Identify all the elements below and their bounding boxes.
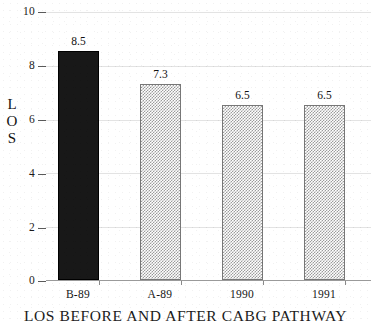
y-tick-mark-2 (38, 228, 46, 229)
x-category-label-b-89: B-89 (33, 288, 123, 301)
x-tick-mark-4 (345, 281, 346, 285)
bar-value-a-89: 7.3 (153, 68, 167, 80)
bar-1991[interactable]: 6.5 (304, 105, 345, 280)
x-tick-mark-3 (263, 281, 264, 285)
y-tick-mark-10 (38, 12, 46, 13)
y-tick-label-4: 4 (9, 168, 35, 179)
y-tick-mark-6 (38, 120, 46, 121)
y-axis-label-char-l: L (2, 96, 22, 113)
x-tick-mark-2 (181, 281, 182, 285)
y-tick-label-6: 6 (9, 114, 35, 125)
y-axis-label-char-s: S (2, 130, 22, 147)
x-tick-mark-1 (99, 281, 100, 285)
x-category-label-1991: 1991 (279, 288, 369, 301)
y-tick-mark-8 (38, 66, 46, 67)
bar-chart-figure: L O S 10 8 6 4 2 0 8.5 7.3 6.5 6.5 (0, 0, 371, 322)
bar-1990[interactable]: 6.5 (222, 105, 263, 280)
gridline-10 (46, 12, 371, 13)
bar-value-b-89: 8.5 (71, 35, 85, 47)
x-axis-line (46, 280, 371, 281)
x-category-label-a-89: A-89 (115, 288, 205, 301)
y-tick-mark-0 (38, 281, 46, 282)
chart-title: LOS BEFORE AND AFTER CABG PATHWAY (0, 307, 371, 322)
plot-area: 8.5 7.3 6.5 6.5 (46, 12, 371, 281)
y-tick-label-2: 2 (9, 222, 35, 233)
x-category-label-1990: 1990 (197, 288, 287, 301)
y-tick-label-10: 10 (9, 6, 35, 17)
y-tick-label-0: 0 (9, 275, 35, 286)
bar-b-89[interactable]: 8.5 (58, 51, 99, 280)
y-tick-label-8: 8 (9, 60, 35, 71)
bar-value-1991: 6.5 (317, 89, 331, 101)
bar-a-89[interactable]: 7.3 (140, 84, 181, 280)
y-tick-mark-4 (38, 174, 46, 175)
bar-value-1990: 6.5 (235, 89, 249, 101)
